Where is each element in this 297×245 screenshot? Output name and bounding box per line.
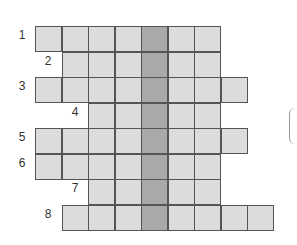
answer-cell[interactable]	[194, 26, 221, 52]
page-edge-decoration	[289, 108, 296, 144]
key-cell[interactable]	[141, 205, 168, 231]
answer-cell[interactable]	[115, 205, 142, 231]
row-number-1: 1	[15, 28, 29, 42]
answer-cell[interactable]	[115, 128, 142, 154]
answer-cell[interactable]	[194, 128, 221, 154]
row-number-4: 4	[68, 105, 82, 119]
answer-cell[interactable]	[88, 128, 115, 154]
answer-cell[interactable]	[35, 154, 62, 180]
key-cell[interactable]	[141, 128, 168, 154]
key-cell[interactable]	[141, 52, 168, 78]
answer-cell[interactable]	[35, 128, 62, 154]
answer-cell[interactable]	[168, 154, 195, 180]
answer-cell[interactable]	[88, 103, 115, 129]
answer-cell[interactable]	[115, 179, 142, 205]
answer-cell[interactable]	[62, 26, 89, 52]
answer-cell[interactable]	[88, 26, 115, 52]
row-number-2: 2	[41, 54, 55, 68]
answer-cell[interactable]	[88, 52, 115, 78]
answer-cell[interactable]	[88, 77, 115, 103]
answer-cell[interactable]	[168, 77, 195, 103]
answer-cell[interactable]	[194, 154, 221, 180]
answer-cell[interactable]	[115, 26, 142, 52]
answer-cell[interactable]	[115, 52, 142, 78]
key-cell[interactable]	[141, 103, 168, 129]
key-cell[interactable]	[141, 179, 168, 205]
answer-cell[interactable]	[115, 77, 142, 103]
answer-cell[interactable]	[221, 205, 248, 231]
answer-cell[interactable]	[168, 205, 195, 231]
answer-cell[interactable]	[62, 154, 89, 180]
answer-cell[interactable]	[35, 26, 62, 52]
key-cell[interactable]	[141, 26, 168, 52]
answer-cell[interactable]	[168, 52, 195, 78]
answer-cell[interactable]	[168, 103, 195, 129]
answer-cell[interactable]	[168, 128, 195, 154]
answer-cell[interactable]	[194, 103, 221, 129]
answer-cell[interactable]	[88, 205, 115, 231]
answer-cell[interactable]	[194, 205, 221, 231]
answer-cell[interactable]	[62, 52, 89, 78]
answer-cell[interactable]	[88, 179, 115, 205]
answer-cell[interactable]	[115, 154, 142, 180]
key-cell[interactable]	[141, 154, 168, 180]
answer-cell[interactable]	[168, 26, 195, 52]
answer-cell[interactable]	[115, 103, 142, 129]
answer-cell[interactable]	[194, 52, 221, 78]
answer-cell[interactable]	[88, 154, 115, 180]
answer-cell[interactable]	[194, 179, 221, 205]
row-number-7: 7	[68, 181, 82, 195]
answer-cell[interactable]	[62, 77, 89, 103]
answer-cell[interactable]	[221, 77, 248, 103]
answer-cell[interactable]	[247, 205, 274, 231]
answer-cell[interactable]	[194, 77, 221, 103]
row-number-5: 5	[15, 130, 29, 144]
key-cell[interactable]	[141, 77, 168, 103]
row-number-8: 8	[41, 207, 55, 221]
answer-cell[interactable]	[62, 205, 89, 231]
answer-cell[interactable]	[35, 77, 62, 103]
answer-cell[interactable]	[168, 179, 195, 205]
answer-cell[interactable]	[221, 128, 248, 154]
row-number-6: 6	[15, 156, 29, 170]
row-number-3: 3	[15, 79, 29, 93]
answer-cell[interactable]	[62, 128, 89, 154]
crossword-grid: 12345678	[0, 0, 297, 245]
